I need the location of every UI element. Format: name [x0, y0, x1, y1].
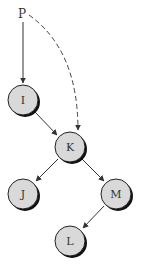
tree-diagram: P I K J M L	[0, 0, 141, 273]
tree-node-i: I	[8, 85, 40, 117]
node-label-j: J	[20, 188, 25, 201]
edge-k-to-m	[82, 159, 104, 181]
pointer-label-p: P	[18, 7, 26, 21]
tree-node-j: J	[8, 179, 40, 211]
node-label-k: K	[66, 141, 75, 154]
edge-k-to-j	[36, 159, 58, 181]
node-label-m: M	[110, 188, 121, 201]
node-label-l: L	[66, 235, 74, 248]
tree-node-k: K	[55, 132, 87, 164]
edge-i-to-k	[35, 112, 57, 135]
tree-node-l: L	[55, 226, 87, 258]
node-label-i: I	[21, 94, 25, 107]
edge-m-to-l	[83, 206, 104, 228]
tree-node-m: M	[101, 179, 133, 211]
